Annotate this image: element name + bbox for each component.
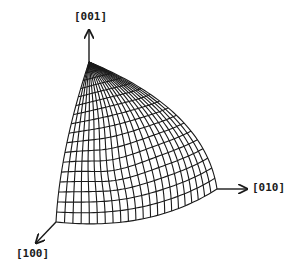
mesh-parallel-line bbox=[74, 94, 151, 114]
mesh-parallel-line bbox=[56, 189, 217, 224]
axis-label-010: [010] bbox=[252, 181, 285, 194]
axis-label-001: [001] bbox=[74, 10, 107, 23]
mesh-meridian-line bbox=[89, 62, 143, 219]
surface-mesh bbox=[56, 62, 217, 224]
axis-100-arrow bbox=[36, 222, 56, 243]
mesh-parallel-line bbox=[58, 168, 212, 202]
axis-label-100: [100] bbox=[16, 247, 49, 260]
crystal-surface-diagram bbox=[0, 0, 305, 273]
